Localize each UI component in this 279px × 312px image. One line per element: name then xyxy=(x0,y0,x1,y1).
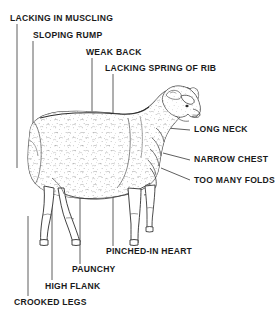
label-paunchy: PAUNCHY xyxy=(72,264,116,274)
hoof-rear-near xyxy=(72,240,80,246)
front-legs xyxy=(128,185,155,246)
label-long-neck: LONG NECK xyxy=(194,124,248,134)
sheep-figure xyxy=(28,86,200,246)
label-high-flank: HIGH FLANK xyxy=(45,281,101,291)
label-weak-back: WEAK BACK xyxy=(86,47,142,57)
hoof-rear-far xyxy=(40,240,48,246)
label-narrow-chest: NARROW CHEST xyxy=(194,154,268,164)
label-pinched-in-heart: PINCHED-IN HEART xyxy=(106,246,192,256)
diagram-canvas: LACKING IN MUSCLING SLOPING RUMP WEAK BA… xyxy=(0,0,279,312)
label-lacking-spring-of-rib: LACKING SPRING OF RIB xyxy=(105,63,216,73)
label-too-many-folds: TOO MANY FOLDS xyxy=(194,175,275,185)
label-crooked-legs: CROOKED LEGS xyxy=(14,297,87,307)
front-leg-near xyxy=(128,188,141,243)
label-sloping-rump: SLOPING RUMP xyxy=(33,30,102,40)
hoof-front-far xyxy=(146,227,153,233)
label-lacking-in-muscling: LACKING IN MUSCLING xyxy=(10,13,113,23)
hoof-front-near xyxy=(130,240,138,246)
eye xyxy=(185,105,188,107)
leader-too-many-folds xyxy=(161,168,190,180)
leader-narrow-chest xyxy=(163,153,190,160)
